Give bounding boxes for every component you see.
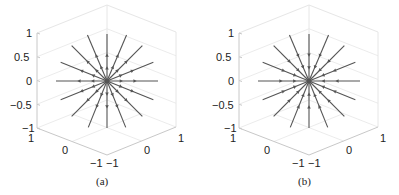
arrow-icon [307,93,311,96]
equilibrium-point [105,79,110,84]
panel-a: 1 0.5 0 −0.5 −1 1 0 −1 −1 0 1 (a) [0,0,200,195]
x-tick-1: 1 [230,133,236,144]
arrow-icon [133,79,136,83]
arrow-icon [105,105,109,108]
x-tick-0: 0 [264,145,270,156]
arrow-icon [105,93,109,96]
arrow-icon [279,79,282,83]
z-tick-neg0.5: −0.5 [212,100,234,111]
y-tick-1: 1 [380,133,386,144]
arrow-icon [307,105,311,108]
arrow-icon [335,79,338,83]
x-tick-neg1: −1 [292,158,305,169]
z-tick-neg0.5: −0.5 [10,100,32,111]
arrow-icon [105,54,109,57]
arrow-icon [77,79,80,83]
x-tick-1: 1 [28,133,34,144]
z-tick-0.5: 0.5 [14,52,29,63]
y-tick-0: 0 [144,145,150,156]
caption-b: (b) [298,175,311,187]
z-tick-1: 1 [228,28,234,39]
x-tick-0: 0 [62,145,68,156]
y-tick-neg1: −1 [106,158,119,169]
x-tick-neg1: −1 [90,158,103,169]
arrow-icon [307,66,311,69]
equilibrium-point [307,79,312,84]
z-tick-1: 1 [26,28,32,39]
y-tick-neg1: −1 [308,158,321,169]
y-tick-1: 1 [178,133,184,144]
arrow-icon [307,54,311,57]
arrow-icon [105,66,109,69]
y-tick-0: 0 [346,145,352,156]
z-tick-0.5: 0.5 [216,52,231,63]
z-tick-0: 0 [26,76,32,87]
caption-a: (a) [96,175,108,187]
panel-b: 1 0.5 0 −0.5 −1 1 0 −1 −1 0 1 (b) [202,0,399,195]
z-tick-0: 0 [228,76,234,87]
